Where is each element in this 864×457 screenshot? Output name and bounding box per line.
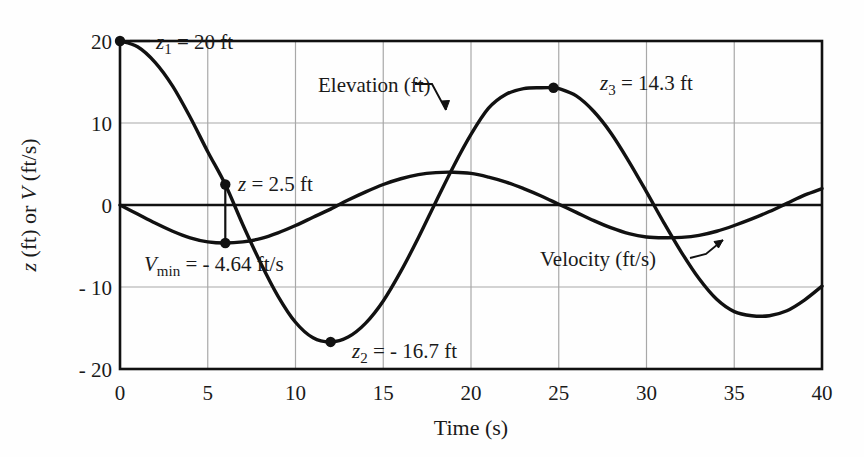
annotation-z2-subscript: 2	[360, 350, 368, 366]
annotation-z-2p5-rest: = 2.5 ft	[246, 172, 313, 196]
annotation-z2: z2 = - 16.7 ft	[351, 339, 457, 366]
ytick-label-minus-20: - 20	[79, 358, 112, 382]
annotation-velocity-label: Velocity (ft/s)	[540, 247, 656, 271]
ytick-label-minus-10: - 10	[79, 276, 112, 300]
data-point-marker-z-2p5	[220, 179, 230, 189]
annotation-z1-rest: = 20 ft	[172, 30, 234, 54]
data-point-marker-z3	[548, 83, 558, 93]
data-point-marker-z1	[115, 36, 125, 46]
x-axis-title: Time (s)	[434, 415, 508, 440]
annotation-z2-rest: = - 16.7 ft	[368, 339, 458, 363]
xtick-label-30: 30	[636, 381, 657, 405]
annotation-z-2p5: z = 2.5 ft	[237, 172, 313, 196]
y-axis-title: z (ft) or V (ft/s)	[16, 138, 41, 272]
xtick-label-10: 10	[285, 381, 306, 405]
data-point-marker-Vmin	[220, 238, 230, 248]
xtick-label-25: 25	[548, 381, 569, 405]
ytick-label-20: 20	[91, 30, 112, 54]
xtick-label-15: 15	[373, 381, 394, 405]
time-series-chart: 20 10 0 - 10 - 20 0 5 10 15 20 25 30 35 …	[0, 0, 864, 457]
annotation-z1-var: z	[155, 30, 164, 54]
svg-text:z (ft) or V (ft/s): z (ft) or V (ft/s)	[16, 138, 41, 272]
chart-figure: 20 10 0 - 10 - 20 0 5 10 15 20 25 30 35 …	[0, 0, 864, 457]
annotation-z3-rest: = 14.3 ft	[616, 71, 693, 95]
annotation-vmin-rest: = - 4.64 ft/s	[180, 252, 283, 276]
data-point-marker-z2	[325, 337, 335, 347]
xtick-label-5: 5	[203, 381, 214, 405]
annotation-z3-var: z	[599, 71, 608, 95]
annotation-elevation-label: Elevation (ft)	[318, 73, 431, 97]
annotation-z2-var: z	[351, 339, 360, 363]
ytick-label-0: 0	[102, 194, 113, 218]
y-axis-title-z: z	[16, 263, 41, 273]
annotation-z1-subscript: 1	[164, 41, 172, 57]
annotation-vmin-subscript: min	[157, 263, 181, 279]
y-axis-title-end: (ft/s)	[16, 138, 41, 186]
xtick-label-35: 35	[724, 381, 745, 405]
annotation-z3-subscript: 3	[608, 82, 616, 98]
xtick-label-40: 40	[812, 381, 833, 405]
annotation-z-2p5-var: z	[237, 172, 246, 196]
xtick-label-0: 0	[115, 381, 126, 405]
y-axis-title-mid: (ft) or	[16, 200, 41, 263]
ytick-label-10: 10	[91, 112, 112, 136]
xtick-label-20: 20	[461, 381, 482, 405]
